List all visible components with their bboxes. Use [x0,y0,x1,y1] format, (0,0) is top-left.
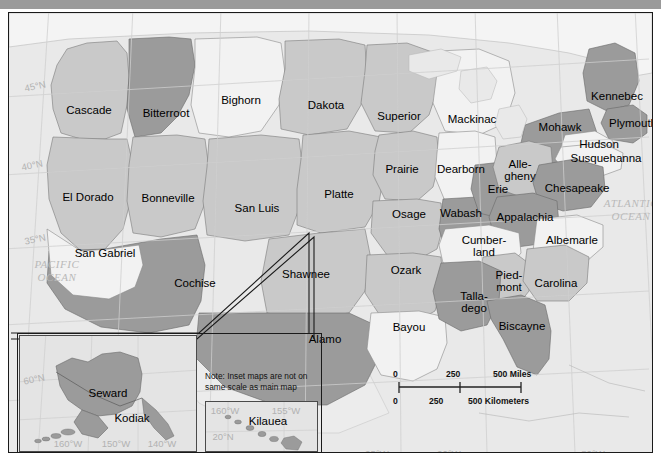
alaska-graticule-label-3: 140°W [148,438,177,449]
inset-scale-note: Note: Inset maps are not on same scale a… [205,371,321,392]
main-map-frame[interactable]: CascadeBitterrootBighornDakotaSuperiorMa… [8,12,653,453]
top-gray-band [0,0,661,9]
graticule-label-5: 80°W [581,448,604,454]
scale-miles-tick-500: 500 Miles [493,369,531,379]
alaska-graticule-label-1: 160°W [54,438,83,449]
inset-map-hawaii[interactable]: Kilauea160°W155°W20°N [205,401,318,452]
hawaii-graticule-label-0: 160°W [211,405,240,416]
hawaii-graticule-label-2: 20°N [212,431,233,442]
inset-map-alaska[interactable]: SewardKodiak60°N160°W150°W140°W [19,335,197,452]
hawaii-graticule-label-1: 155°W [272,405,301,416]
scale-miles-tick-250: 250 [446,369,460,379]
scale-bar: 0 250 500 Miles 0 250 500 Kilometers [383,369,543,415]
map-screenshot: CascadeBitterrootBighornDakotaSuperiorMa… [0,0,661,459]
scale-km-tick-500: 500 Kilometers [468,396,529,406]
atlantic-ocean-label: ATLANTICOCEAN [604,197,653,223]
pacific-ocean-label: PACIFICOCEAN [35,258,80,284]
alaska-geometry [20,336,196,451]
graticule-label-4: 90°W [437,448,460,454]
scale-km-tick-0: 0 [393,396,398,406]
scale-miles-tick-0: 0 [393,369,398,379]
alaska-graticule-label-2: 150°W [102,438,131,449]
scale-km-tick-250: 250 [429,396,443,406]
graticule-label-3: 95°W [365,448,388,454]
